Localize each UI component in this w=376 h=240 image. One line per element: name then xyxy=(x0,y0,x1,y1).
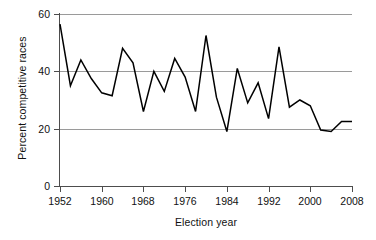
x-tick-mark-2000 xyxy=(310,187,311,192)
x-tick-mark-1952 xyxy=(60,187,61,192)
x-tick-label-1968: 1968 xyxy=(121,195,165,207)
x-tick-label-1984: 1984 xyxy=(205,195,249,207)
line-chart: Percent competitive races Election year … xyxy=(0,0,376,240)
data-line-percent-competitive-races xyxy=(60,24,352,132)
x-tick-label-2000: 2000 xyxy=(288,195,332,207)
y-tick-label-40: 40 xyxy=(10,66,50,76)
y-tick-mark-40 xyxy=(54,71,60,72)
x-tick-label-1976: 1976 xyxy=(163,195,207,207)
y-tick-label-0: 0 xyxy=(10,181,50,191)
y-tick-mark-60 xyxy=(54,14,60,15)
x-tick-mark-2008 xyxy=(352,187,353,192)
x-tick-mark-1968 xyxy=(143,187,144,192)
x-tick-label-1992: 1992 xyxy=(247,195,291,207)
x-tick-mark-1976 xyxy=(185,187,186,192)
y-tick-label-60: 60 xyxy=(10,9,50,19)
x-tick-mark-1984 xyxy=(227,187,228,192)
x-tick-label-1952: 1952 xyxy=(38,195,82,207)
x-tick-mark-1960 xyxy=(102,187,103,192)
x-tick-mark-1992 xyxy=(269,187,270,192)
y-tick-mark-20 xyxy=(54,129,60,130)
y-tick-label-20: 20 xyxy=(10,124,50,134)
x-tick-label-2008: 2008 xyxy=(330,195,374,207)
x-axis-title: Election year xyxy=(60,216,352,228)
x-tick-label-1960: 1960 xyxy=(80,195,124,207)
